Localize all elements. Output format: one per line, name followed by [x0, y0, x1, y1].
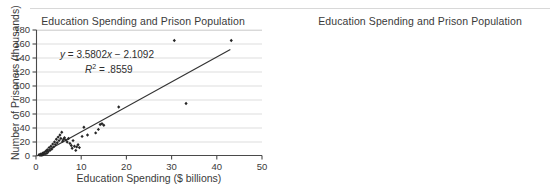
y-tick-label: 0	[25, 150, 30, 161]
data-point	[78, 146, 81, 149]
y-tick-label: 140	[14, 52, 30, 63]
y-tick-label: 80	[19, 94, 30, 105]
y-tick-label: 120	[14, 66, 30, 77]
data-point	[60, 131, 63, 134]
data-point	[117, 105, 120, 108]
data-point	[173, 39, 176, 42]
figure-page: Education Spending and Prison Population…	[0, 0, 557, 196]
regression-equation-left: y = 3.5802x − 2.1092	[60, 49, 154, 60]
data-point	[94, 131, 97, 134]
x-tick-label: 40	[212, 161, 223, 172]
chart-title-left: Education Spending and Prison Population	[18, 15, 268, 27]
data-point	[184, 102, 187, 105]
y-tick-label: 180	[14, 24, 30, 35]
y-tick-label: 20	[19, 136, 30, 147]
eq-mid-left: = 3.5802	[65, 49, 107, 60]
chart-panel-left: Education Spending and Prison Population…	[0, 0, 279, 196]
data-point	[73, 145, 76, 148]
y-tick-label: 40	[19, 122, 30, 133]
x-tick-label: 0	[33, 161, 38, 172]
data-point	[230, 39, 233, 42]
x-tick-label: 30	[166, 161, 177, 172]
data-point	[86, 133, 89, 136]
y-tick-label: 160	[14, 38, 30, 49]
r-squared-left: R2 = .8559	[85, 63, 133, 75]
data-point	[81, 135, 84, 138]
eq-rest-left: − 2.1092	[112, 49, 154, 60]
x-tick-label: 10	[76, 161, 87, 172]
x-tick-label: 20	[121, 161, 132, 172]
x-axis-label-left: Education Spending ($ billions)	[36, 172, 262, 184]
y-tick-label: 60	[19, 108, 30, 119]
data-point	[82, 126, 85, 129]
y-tick-label: 100	[14, 80, 30, 91]
data-point	[71, 147, 74, 150]
chart-panel-right: Education Spending and Prison Population…	[279, 0, 557, 196]
r2-value-left: = .8559	[96, 64, 132, 75]
data-point	[74, 149, 77, 152]
chart-title-right: Education Spending and Prison Population	[287, 15, 553, 27]
x-tick-label: 50	[257, 161, 268, 172]
